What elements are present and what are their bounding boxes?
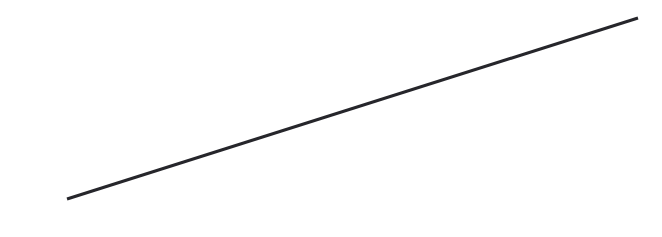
line-figure-svg: [0, 0, 662, 237]
background-rect: [0, 0, 662, 237]
figure-canvas: [0, 0, 662, 237]
